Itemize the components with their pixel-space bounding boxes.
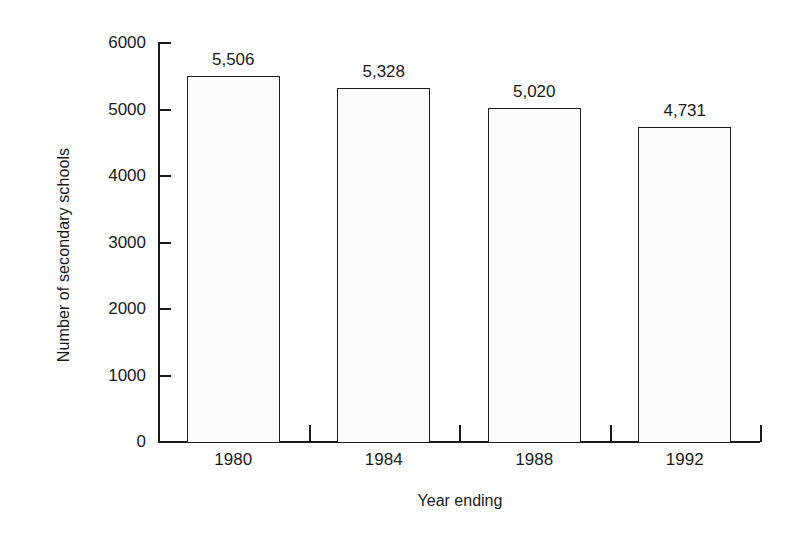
- bar-chart: Number of secondary schools 010002000300…: [0, 0, 798, 539]
- x-axis-category-label: 1988: [474, 450, 594, 470]
- y-axis-tick-label: 1000: [88, 366, 146, 386]
- bar-value-label: 5,506: [173, 50, 293, 70]
- x-axis-tick-mark: [760, 425, 762, 442]
- x-axis-tick-mark: [610, 425, 612, 442]
- bar-value-label: 5,020: [474, 82, 594, 102]
- y-axis-tick-label: 2000: [88, 299, 146, 319]
- y-axis-tick-label: 5000: [88, 100, 146, 120]
- x-axis-category-label: 1992: [625, 450, 745, 470]
- x-axis-category-label: 1980: [173, 450, 293, 470]
- bar-value-label: 5,328: [324, 62, 444, 82]
- bar: [337, 88, 430, 443]
- bar-value-label: 4,731: [625, 101, 745, 121]
- y-axis-tick-label: 6000: [88, 33, 146, 53]
- bar: [638, 127, 731, 443]
- y-axis-title: Number of secondary schools: [55, 95, 73, 415]
- x-axis-tick-mark: [158, 425, 160, 442]
- x-axis-category-label: 1984: [324, 450, 444, 470]
- x-axis-tick-mark: [309, 425, 311, 442]
- bar: [187, 76, 280, 443]
- x-axis-title: Year ending: [150, 492, 770, 510]
- bar: [488, 108, 581, 443]
- y-axis-tick-label: 0: [88, 432, 146, 452]
- y-axis-tick-label: 4000: [88, 166, 146, 186]
- y-axis-line: [158, 43, 160, 443]
- x-axis-tick-mark: [459, 425, 461, 442]
- y-axis-tick-label: 3000: [88, 233, 146, 253]
